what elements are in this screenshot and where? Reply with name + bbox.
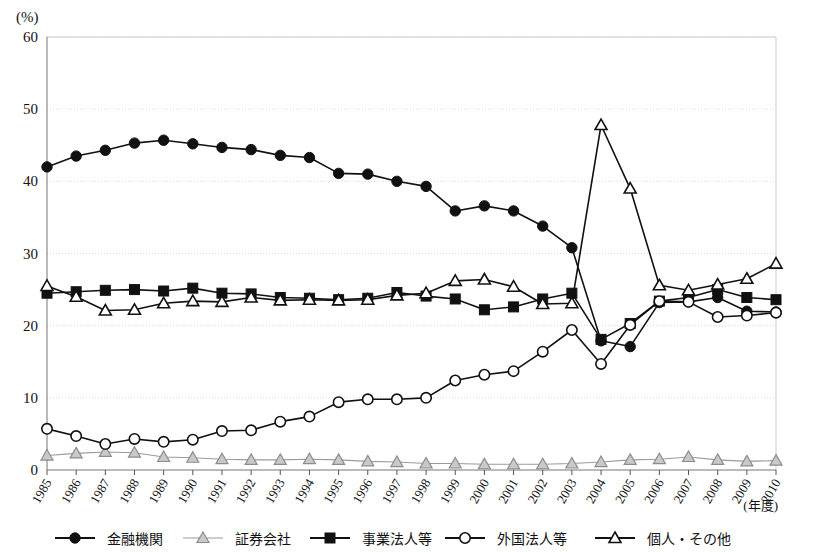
data-point — [624, 183, 636, 194]
x-tick-label: 1996 — [349, 476, 375, 506]
x-tick-label: 1995 — [320, 476, 346, 506]
data-point — [479, 201, 489, 211]
series-line — [47, 140, 776, 346]
data-point — [712, 312, 722, 322]
line-chart: 0102030405060(%)198519861987198819891990… — [0, 0, 828, 552]
data-point — [100, 145, 110, 155]
data-point — [450, 206, 460, 216]
data-point — [771, 295, 781, 305]
x-tick-label: 1985 — [29, 476, 55, 506]
legend-item-1[interactable]: 金融機関 — [55, 531, 163, 547]
series-1 — [42, 135, 781, 352]
legend-marker — [325, 533, 335, 543]
data-point — [479, 305, 489, 315]
data-point — [303, 453, 315, 464]
data-point — [128, 447, 140, 458]
data-point — [392, 394, 402, 404]
data-point — [158, 437, 168, 447]
x-tick-label: 1994 — [291, 476, 317, 506]
data-point — [567, 243, 577, 253]
data-point — [129, 434, 139, 444]
data-point — [187, 452, 199, 463]
x-tick-label: 2008 — [699, 476, 725, 506]
legend-item-5[interactable]: 個人・その他 — [595, 531, 731, 547]
series-line — [47, 125, 776, 310]
legend-item-3[interactable]: 事業法人等 — [310, 531, 432, 547]
x-tick-label: 2004 — [583, 476, 609, 506]
x-tick-label: 1991 — [204, 476, 230, 506]
data-point — [770, 258, 782, 269]
data-point — [363, 394, 373, 404]
x-tick-label: 2005 — [612, 476, 638, 506]
series-line — [47, 452, 776, 464]
data-point — [450, 294, 460, 304]
data-point — [741, 273, 753, 284]
data-point — [159, 286, 169, 296]
data-point — [421, 393, 431, 403]
data-point — [363, 169, 373, 179]
data-point — [246, 144, 256, 154]
x-tick-label: 1998 — [408, 476, 434, 506]
x-tick-label: 2007 — [670, 476, 696, 506]
data-point — [129, 138, 139, 148]
y-tick-label: 0 — [31, 462, 39, 478]
data-point — [333, 397, 343, 407]
data-point — [275, 416, 285, 426]
legend-label: 外国法人等 — [497, 531, 567, 547]
data-point — [333, 168, 343, 178]
legend: 金融機関証券会社事業法人等外国法人等個人・その他 — [55, 531, 731, 547]
data-point — [71, 151, 81, 161]
x-tick-label: 1987 — [87, 476, 113, 506]
legend-marker — [70, 533, 80, 543]
data-point — [771, 307, 781, 317]
data-point — [333, 454, 345, 465]
data-point — [42, 424, 52, 434]
x-tick-label: 2006 — [641, 476, 667, 506]
y-tick-label: 20 — [23, 318, 38, 334]
legend-marker — [197, 532, 209, 543]
series-5 — [41, 119, 782, 315]
data-point — [683, 451, 695, 462]
x-tick-label: 1990 — [174, 476, 200, 506]
data-point — [246, 425, 256, 435]
x-tick-label: 2001 — [495, 476, 521, 506]
data-point — [392, 176, 402, 186]
x-tick-label: 2000 — [466, 476, 492, 506]
data-point — [683, 297, 693, 307]
data-point — [129, 285, 139, 295]
series-3 — [42, 283, 781, 344]
x-tick-label: 1988 — [116, 476, 142, 506]
chart-container: 0102030405060(%)198519861987198819891990… — [0, 0, 828, 552]
data-point — [100, 285, 110, 295]
y-tick-label: 60 — [23, 29, 38, 45]
x-tick-label: 1999 — [437, 476, 463, 506]
data-point — [304, 411, 314, 421]
data-point — [217, 426, 227, 436]
y-tick-label: 50 — [23, 101, 38, 117]
data-point — [596, 334, 606, 344]
legend-label: 事業法人等 — [362, 531, 432, 547]
data-point — [653, 279, 665, 290]
data-point — [188, 139, 198, 149]
data-point — [100, 439, 110, 449]
x-tick-label: 1997 — [379, 476, 405, 506]
data-point — [274, 454, 286, 465]
legend-item-2[interactable]: 証券会社 — [183, 531, 291, 547]
legend-item-4[interactable]: 外国法人等 — [445, 531, 567, 547]
data-point — [596, 359, 606, 369]
data-point — [217, 142, 227, 152]
data-point — [742, 293, 752, 303]
data-point — [158, 135, 168, 145]
series-2 — [41, 446, 782, 469]
data-point — [538, 221, 548, 231]
data-point — [391, 456, 403, 467]
legend-marker — [460, 533, 470, 543]
x-tick-label: 1986 — [58, 476, 84, 506]
x-tick-label: 2003 — [553, 476, 579, 506]
data-point — [188, 434, 198, 444]
data-point — [188, 283, 198, 293]
legend-label: 金融機関 — [107, 531, 163, 547]
y-axis-unit-label: (%) — [16, 9, 39, 26]
series-line — [47, 301, 776, 444]
data-point — [478, 458, 490, 469]
